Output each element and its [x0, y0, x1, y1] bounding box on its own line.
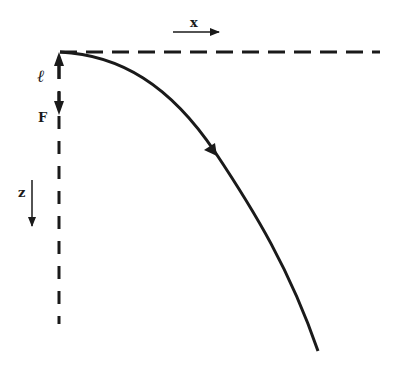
- diagram-svg: [0, 0, 397, 372]
- diagram-canvas: x z ℓ F: [0, 0, 397, 372]
- force-label: F: [38, 111, 47, 124]
- length-label: ℓ: [37, 68, 44, 85]
- x-axis-label: x: [190, 16, 198, 29]
- force-down-arrow-icon: [54, 101, 64, 115]
- z-axis-label: z: [18, 186, 25, 199]
- deflection-curve: [60, 52, 318, 351]
